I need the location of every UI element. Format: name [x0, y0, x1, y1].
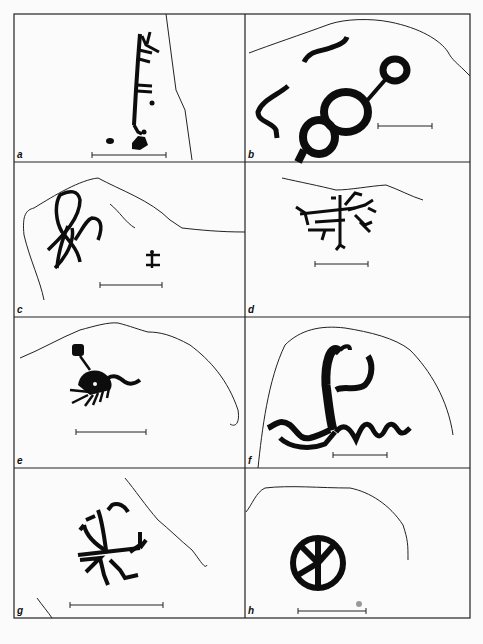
panel-label-e: e [17, 455, 23, 466]
glyph-small-cross [146, 250, 160, 268]
scale-bar [298, 608, 366, 614]
glyph-branching-figure [296, 193, 376, 250]
panel-label-a: a [17, 149, 23, 160]
panel-b [249, 20, 470, 162]
rock-edge-lower [37, 598, 52, 618]
figure-svg [0, 0, 483, 644]
rock-outline [249, 20, 470, 76]
panel-d [282, 178, 423, 267]
scale-bar [378, 123, 432, 129]
glyph-figure-with-head [70, 344, 140, 406]
panel-c [23, 178, 245, 300]
panel-label-g: g [17, 605, 23, 616]
rock-edge [125, 478, 207, 566]
panel-g [37, 478, 207, 618]
scale-bar [100, 282, 162, 288]
petroglyph-figure: a b c d e f g h [0, 0, 483, 644]
scale-bar [92, 152, 166, 158]
glyph-ring-chain [258, 37, 407, 162]
panel-label-h: h [248, 605, 254, 616]
panel-f [258, 327, 453, 468]
glyph-comb-figure [106, 32, 159, 150]
rock-outline [258, 327, 453, 468]
scale-bar [315, 261, 368, 267]
scale-bar [333, 452, 387, 458]
panel-label-d: d [248, 304, 254, 315]
panel-a [92, 14, 192, 160]
rock-edge [166, 14, 192, 160]
panel-label-f: f [248, 455, 251, 466]
panel-h [246, 487, 408, 614]
scale-bar [70, 602, 163, 608]
panel-label-b: b [248, 149, 254, 160]
scale-bar [76, 429, 146, 435]
glyph-figure-wavy [268, 346, 410, 447]
glyph-spoked-wheel [293, 538, 343, 588]
glyph-interlaced-curves [48, 192, 101, 268]
glyph-radiating-figure [78, 504, 146, 585]
rock-edge-inner [110, 204, 135, 228]
panel-label-c: c [17, 304, 23, 315]
rock-outline [20, 323, 239, 425]
panel-e [20, 323, 239, 435]
ink-speck [356, 601, 362, 607]
